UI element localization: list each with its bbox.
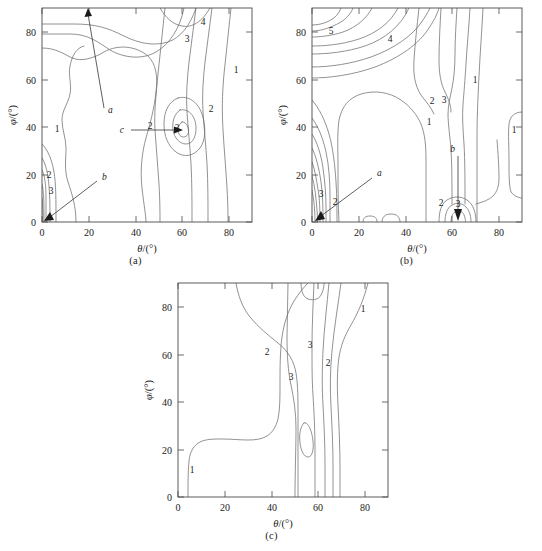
y-tick-label: 0 [167,492,172,503]
x-tick-label: 40 [131,227,141,238]
contour-figure: 0 20 40 60 80 0 20 40 60 80 θ/(°) φ/(°) … [0,0,542,551]
y-tick-label: 80 [296,27,306,38]
y-tick-label: 40 [162,397,172,408]
y-tick-label: 20 [296,170,306,181]
y-tick-label: 40 [296,122,306,133]
x-tick-label: 20 [84,227,94,238]
panel-c-plot: 0 20 40 60 80 0 20 40 60 80 θ/(°) φ/(°) … [136,275,407,533]
marker-label-c: c [120,125,125,135]
y-ticks-c [178,307,388,497]
annotations-a: a b c [44,8,183,221]
contour-label: 3 [319,189,324,199]
x-tick-label: 60 [447,227,457,238]
panel-c: 0 20 40 60 80 0 20 40 60 80 θ/(°) φ/(°) … [136,275,407,551]
x-tick-label: 40 [267,502,277,513]
contour-label: 2 [439,198,444,208]
x-tick-label: 0 [310,227,315,238]
contour-label: 3 [442,95,447,105]
y-tick-label: 80 [26,27,36,38]
x-ticks-a [42,8,229,222]
x-axis-title-a: θ/(°) [137,243,157,255]
contour-label: 1 [473,75,478,85]
x-axis-title-b: θ/(°) [407,243,427,255]
plot-frame-b [312,8,522,222]
x-tick-label: 0 [176,502,181,513]
contour-set-c [188,283,368,497]
x-tick-label: 60 [313,502,323,513]
contour-label: 2 [47,170,52,180]
x-tick-label: 80 [360,502,370,513]
y-tick-label: 40 [26,122,36,133]
y-tick-label: 60 [26,75,36,86]
contour-label: 4 [201,17,206,27]
contour-label: 3 [289,372,294,382]
panel-caption-a: (a) [0,255,271,266]
contour-label: 3 [49,186,54,196]
x-tick-label: 0 [40,227,45,238]
panel-a-plot: 0 20 40 60 80 0 20 40 60 80 θ/(°) φ/(°) … [0,0,271,258]
panel-caption-c: (c) [136,530,407,541]
contour-label: 2 [265,347,270,357]
contour-label: 3 [185,34,190,44]
contour-labels-c: 1 2 3 2 3 1 [190,304,366,475]
x-ticks-c [178,283,365,497]
contour-label: 2 [148,121,153,131]
marker-label-b: b [450,144,455,154]
contour-labels-a: 4 3 1 2 1 2 3 2 3 [47,17,239,196]
y-tick-label: 20 [162,445,172,456]
contour-label: 2 [209,104,214,114]
marker-label-a: a [108,105,113,115]
x-tick-label: 80 [224,227,234,238]
plot-frame-a [42,8,252,222]
x-axis-title-c: θ/(°) [273,518,293,530]
panel-a: 0 20 40 60 80 0 20 40 60 80 θ/(°) φ/(°) … [0,0,271,275]
contour-label: 2 [326,358,331,368]
y-axis-title-b: φ/(°) [277,105,289,125]
y-axis-title-a: φ/(°) [7,105,19,125]
contour-label: 4 [388,34,393,44]
x-tick-label: 80 [494,227,504,238]
y-tick-label: 20 [26,170,36,181]
contour-label: 1 [512,125,517,135]
marker-label-b: b [102,172,107,182]
x-tick-label: 60 [177,227,187,238]
y-tick-label: 60 [296,75,306,86]
x-tick-label: 20 [354,227,364,238]
contour-label: 1 [427,117,432,127]
contour-label: 1 [190,465,195,475]
y-tick-label: 60 [162,350,172,361]
y-tick-label: 0 [31,217,36,228]
y-ticks-b [312,32,522,222]
panel-b: 0 20 40 60 80 0 20 40 60 80 θ/(°) φ/(°) … [271,0,542,275]
contour-label: 1 [361,304,366,314]
contour-label: 1 [234,65,239,75]
contour-label: 3 [308,340,313,350]
y-tick-label: 80 [162,302,172,313]
panel-b-plot: 0 20 40 60 80 0 20 40 60 80 θ/(°) φ/(°) … [271,0,542,258]
marker-label-a: a [377,168,382,178]
contour-set-a [42,8,231,222]
panel-caption-b: (b) [271,255,542,266]
contour-label: 2 [430,96,435,106]
x-tick-label: 20 [220,502,230,513]
contour-label: 5 [329,26,334,36]
y-axis-title-c: φ/(°) [143,380,155,400]
contour-set-b [312,8,522,222]
y-tick-label: 0 [301,217,306,228]
x-tick-label: 40 [401,227,411,238]
contour-label: 1 [55,124,60,134]
